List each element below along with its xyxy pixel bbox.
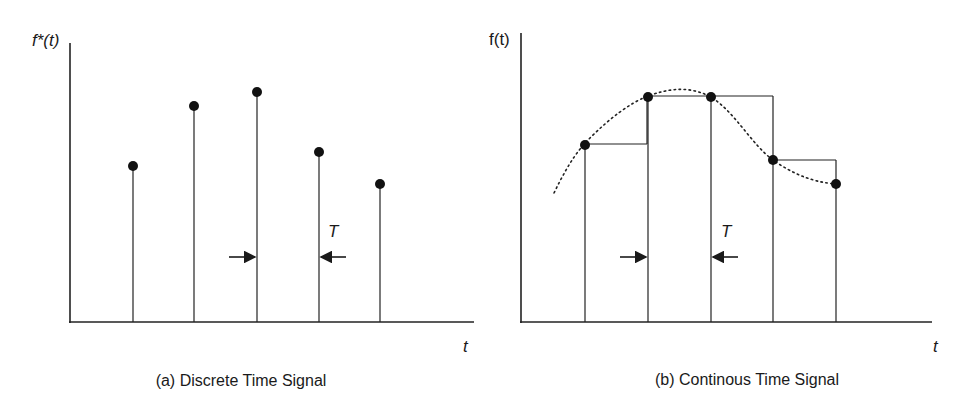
x-axis-label-a: t bbox=[463, 337, 469, 356]
y-axis-label-a: f*(t) bbox=[32, 31, 59, 50]
stems bbox=[133, 92, 380, 322]
zero-order-hold bbox=[585, 96, 836, 322]
panel-continuous bbox=[520, 33, 932, 323]
period-label-a: T bbox=[328, 222, 340, 241]
period-label-b: T bbox=[721, 222, 733, 241]
signal-diagram: f*(t) T t (a) Discrete Time Signal f(t) … bbox=[0, 0, 971, 417]
caption-a: (a) Discrete Time Signal bbox=[156, 372, 327, 389]
continuous-curve bbox=[554, 89, 836, 193]
y-axis-label-b: f(t) bbox=[489, 30, 510, 49]
caption-b: (b) Continous Time Signal bbox=[655, 371, 839, 388]
x-axis-label-b: t bbox=[933, 337, 939, 356]
panel-discrete bbox=[69, 43, 474, 323]
